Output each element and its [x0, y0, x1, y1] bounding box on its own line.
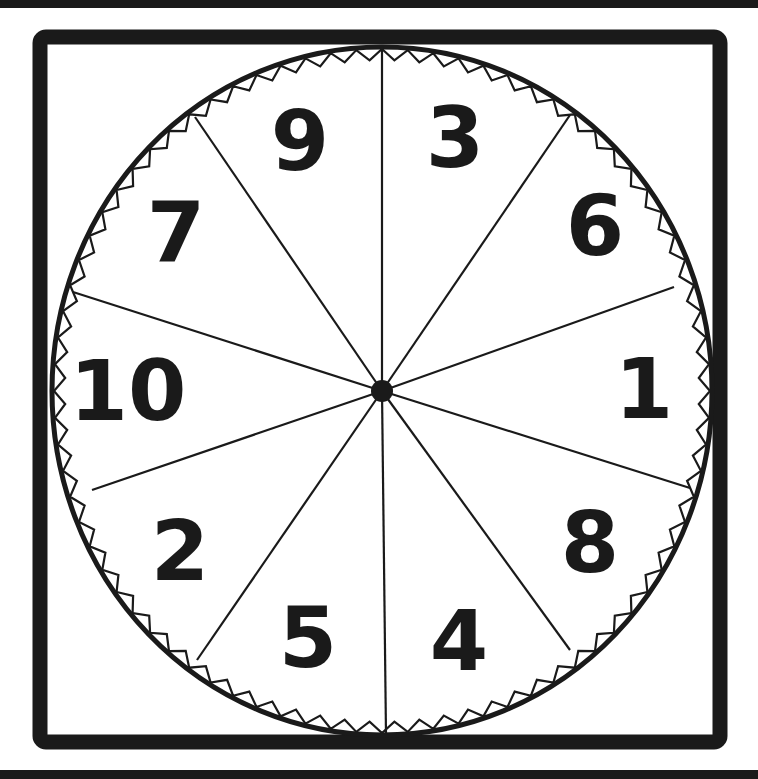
- section-number-10: 10: [70, 342, 187, 440]
- divider-line: [382, 391, 386, 735]
- section-number-5: 5: [279, 589, 337, 687]
- section-number-4: 4: [430, 592, 488, 690]
- bottom-edge-bar: [0, 770, 758, 779]
- section-number-3: 3: [426, 89, 484, 187]
- spinner-canvas: 36184521079: [0, 0, 758, 779]
- section-number-6: 6: [566, 177, 624, 275]
- top-edge-bar: [0, 0, 758, 8]
- section-number-7: 7: [147, 184, 205, 282]
- section-number-8: 8: [561, 494, 619, 592]
- center-pin-icon[interactable]: [371, 380, 393, 402]
- section-number-2: 2: [151, 502, 209, 600]
- section-number-9: 9: [271, 92, 329, 190]
- section-number-1: 1: [615, 340, 673, 438]
